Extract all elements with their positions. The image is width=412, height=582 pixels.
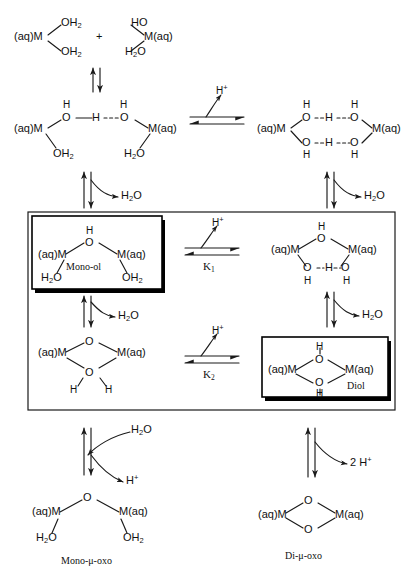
equilibrium-arrow-top-middle xyxy=(190,117,244,124)
hydroxo-ol-metal-left: (aq)M xyxy=(271,244,300,255)
topleft-metal-label: (aq)M xyxy=(14,31,43,42)
equilibrium-arrow-k1 xyxy=(185,248,239,255)
diol-protonated-h-left: H xyxy=(70,385,77,395)
curved-arrow-proton-3 xyxy=(201,334,217,356)
equilibrium-arrow-bottom-right xyxy=(308,428,315,477)
di-oxo-bot-o: O xyxy=(304,524,313,535)
mono-ol-leg-right: OH2 xyxy=(122,272,143,285)
mono-ol-leg-left: H2O xyxy=(41,272,62,285)
hbond-mono-metal-right: M(aq) xyxy=(148,123,177,134)
hbond-di-o-bot-right: O xyxy=(350,137,359,148)
bond-topleft-upper xyxy=(48,25,61,35)
topright-ligand-lower: H2O xyxy=(125,46,146,59)
proton-label-4: H+ xyxy=(126,474,138,486)
curved-arrow-water-1 xyxy=(91,180,118,197)
mono-oxo-metal-left: (aq)M xyxy=(32,506,61,517)
hbond-di-o-top-right: O xyxy=(350,112,359,123)
curved-arrow-proton-4-out xyxy=(91,455,123,482)
hbond-mono-leg-right: H2O xyxy=(124,148,145,161)
scheme-vector-layer xyxy=(0,0,412,582)
mono-ol-name: Mono-ol xyxy=(66,262,101,272)
mono-oxo-bridge-o: O xyxy=(83,492,92,503)
diol-protonated-top-o: O xyxy=(85,336,94,347)
di-oxo-name: Di-μ-oxo xyxy=(285,551,322,561)
topleft-ligand-lower: OH2 xyxy=(61,46,82,59)
mono-oxo-leg-left: H2O xyxy=(36,532,57,545)
curved-arrow-water-5-in xyxy=(88,432,130,455)
hbond-di-bridge-h-top: H xyxy=(325,112,333,123)
water-label-3: H2O xyxy=(118,310,139,323)
equilibrium-arrow-right-2 xyxy=(327,292,334,327)
hbond-mono-metal-left: (aq)M xyxy=(14,123,43,134)
di-oxo-top-o: O xyxy=(304,495,313,506)
equilibrium-arrow-k2 xyxy=(185,356,239,363)
hydroxo-ol-h-left: H xyxy=(304,276,311,286)
diol-protonated-h-right: H xyxy=(105,385,112,395)
hbond-di-h-bot-right: H xyxy=(351,150,358,160)
diol-protonated-metal-left: (aq)M xyxy=(38,347,67,358)
mono-ol-metal-right: M(aq) xyxy=(117,249,146,260)
k2-label: K2 xyxy=(203,369,215,382)
hydroxo-ol-metal-right: M(aq) xyxy=(348,244,377,255)
curved-arrow-proton-2 xyxy=(201,226,217,248)
mono-ol-bridge-h: H xyxy=(86,226,93,236)
hbond-di-h-top-right: H xyxy=(351,100,358,110)
topright-ligand-upper: HO xyxy=(131,17,148,28)
curved-arrow-proton-two xyxy=(315,442,347,464)
bonds-diol-protonated xyxy=(66,343,117,386)
topright-metal-label: M(aq) xyxy=(144,31,173,42)
hbond-mono-h-top-left: H xyxy=(63,100,70,110)
water-label-5: H2O xyxy=(131,424,152,437)
diol-protonated-metal-right: M(aq) xyxy=(117,347,146,358)
hbond-mono-o-left: O xyxy=(62,112,71,123)
mono-ol-metal-left: (aq)M xyxy=(38,249,67,260)
proton-two-label: 2 H+ xyxy=(350,456,372,468)
hbond-di-metal-left: (aq)M xyxy=(257,123,286,134)
diol-top-h: H xyxy=(316,342,323,352)
equilibrium-arrow-bottom-left xyxy=(84,428,91,475)
equilibrium-arrow-left-1 xyxy=(84,172,91,208)
diol-protonated-bot-o: O xyxy=(85,367,94,378)
hbond-di-h-bot-left: H xyxy=(303,150,310,160)
equilibrium-arrow-right-1 xyxy=(327,172,334,208)
curved-arrow-water-4 xyxy=(334,300,359,316)
diol-metal-right: M(aq) xyxy=(345,364,374,375)
hydroxo-ol-h-right: H xyxy=(343,276,350,286)
hbond-di-o-bot-left: O xyxy=(302,137,311,148)
equilibrium-arrow-left-2 xyxy=(84,296,91,327)
mono-oxo-metal-right: M(aq) xyxy=(119,506,148,517)
di-oxo-metal-left: (aq)M xyxy=(258,509,287,520)
hbond-di-o-top-left: O xyxy=(302,112,311,123)
hbond-mono-bridge-h: H xyxy=(92,112,100,123)
mono-ol-bridge-o: O xyxy=(85,237,94,248)
k1-label: K1 xyxy=(203,261,215,274)
diol-metal-left: (aq)M xyxy=(268,364,297,375)
hbond-di-metal-right: M(aq) xyxy=(372,123,401,134)
bond-topleft-lower xyxy=(48,41,61,51)
di-oxo-metal-right: M(aq) xyxy=(335,509,364,520)
diol-bot-o: O xyxy=(315,377,324,388)
mono-oxo-leg-right: OH2 xyxy=(123,532,144,545)
hbond-di-h-top-left: H xyxy=(303,100,310,110)
hydroxo-ol-o-right: O xyxy=(341,262,350,273)
topleft-ligand-upper: OH2 xyxy=(61,17,82,30)
diol-top-o: O xyxy=(315,354,324,365)
plus-sign: + xyxy=(96,31,102,42)
equilibrium-arrow-top xyxy=(93,68,100,92)
proton-label-1: H+ xyxy=(216,84,228,96)
water-label-2: H2O xyxy=(364,190,385,203)
water-label-4: H2O xyxy=(362,309,383,322)
bonds-mono-oxo xyxy=(52,500,127,533)
hydroxo-ol-bridge-h: H xyxy=(318,222,325,232)
hydroxo-ol-o-left: O xyxy=(303,262,312,273)
hbond-mono-leg-left: OH2 xyxy=(53,148,74,161)
curved-arrow-water-2 xyxy=(334,180,361,197)
proton-label-3: H+ xyxy=(212,324,224,336)
water-label-1: H2O xyxy=(121,190,142,203)
hbond-mono-h-top-right: H xyxy=(120,100,127,110)
curved-arrow-proton-1 xyxy=(206,95,221,117)
diol-bot-h: H xyxy=(316,389,323,399)
hydroxo-ol-bridge-o: O xyxy=(317,233,326,244)
hbond-di-bridge-h-bot: H xyxy=(325,137,333,148)
mono-oxo-name: Mono-μ-oxo xyxy=(61,556,112,566)
